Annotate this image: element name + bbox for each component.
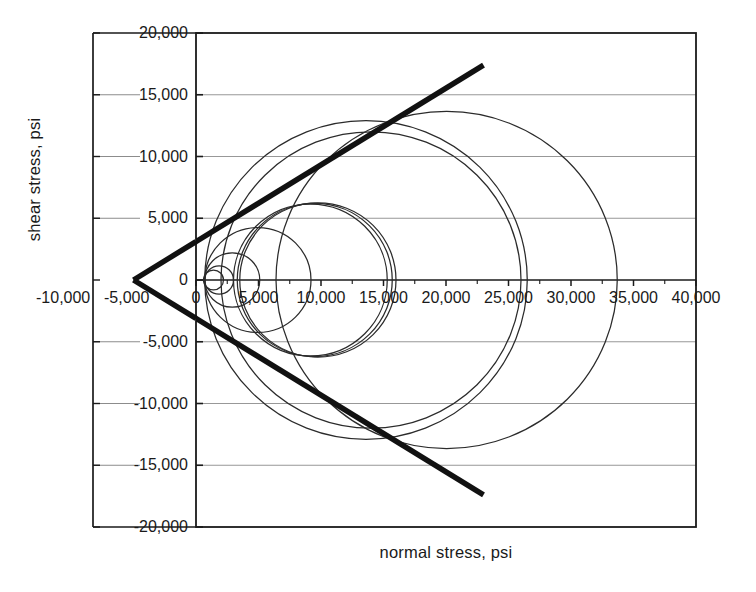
y-tick-label: 5,000 (78, 209, 188, 227)
y-tick-label: 15,000 (78, 86, 188, 104)
x-tick-label: 40,000 (672, 289, 721, 307)
x-tick-label: 0 (192, 289, 201, 307)
x-tick-label: 25,000 (484, 289, 533, 307)
x-axis-title: normal stress, psi (196, 543, 696, 562)
y-tick-label: 0 (78, 271, 188, 289)
x-tick-label: 5,000 (238, 289, 278, 307)
x-tick-label: 10,000 (297, 289, 346, 307)
x-tick-label: 30,000 (547, 289, 596, 307)
left-axis-tick-label: -5,000 (104, 289, 149, 307)
y-tick-label: -15,000 (78, 456, 188, 474)
y-tick-label: -20,000 (78, 518, 188, 536)
x-axis (196, 280, 696, 286)
y-tick-label: -5,000 (78, 333, 188, 351)
x-tick-label: 35,000 (609, 289, 658, 307)
y-tick-label: 10,000 (78, 148, 188, 166)
x-tick-label: 15,000 (359, 289, 408, 307)
x-tick-label: 20,000 (422, 289, 471, 307)
y-axis-title: shear stress, psi (25, 50, 44, 310)
y-tick-label: 20,000 (78, 24, 188, 42)
y-tick-label: -10,000 (78, 395, 188, 413)
mohr-circle-chart: 20,00015,00010,0005,0000-5,000-10,000-15… (0, 0, 756, 592)
left-axis-tick-label: -10,000 (36, 289, 90, 307)
